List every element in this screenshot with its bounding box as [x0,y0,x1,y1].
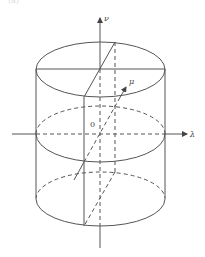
cylinder-diagram: (a) [0,0,205,257]
lambda-label: λ [189,130,195,139]
origin-label: 0 [90,120,95,129]
diagram-canvas: ν μ λ 0 [0,0,205,257]
nu-label: ν [104,14,109,23]
mu-axis-arrow [118,87,126,101]
mu-axis-front [74,162,84,180]
mu-label: μ [129,77,134,86]
cropped-caption-fragment: (a) [8,0,19,5]
mu-axis-inside [84,101,118,162]
